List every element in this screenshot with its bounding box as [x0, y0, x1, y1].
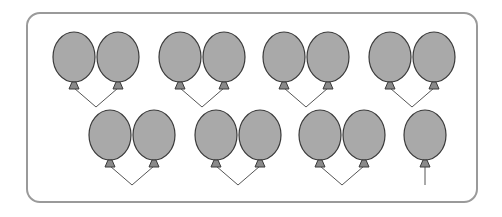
balloon-knot: [149, 160, 159, 167]
balloon-icon: [404, 110, 446, 167]
balloon-string: [342, 166, 364, 185]
balloon-icon: [89, 110, 131, 167]
balloon-string: [306, 88, 328, 107]
balloon-icon: [97, 32, 139, 89]
balloon-icon: [159, 32, 201, 89]
balloon-icon: [369, 32, 411, 89]
balloon-pair: [159, 32, 245, 107]
balloon-knot: [359, 160, 369, 167]
balloon-string: [110, 166, 132, 185]
balloon-icon: [53, 32, 95, 89]
balloon-icon: [195, 110, 237, 167]
balloon-knot: [420, 160, 430, 167]
balloon-string: [284, 88, 306, 107]
balloon-illustration: [0, 0, 502, 217]
balloon-pair: [53, 32, 139, 107]
single-balloon: [404, 110, 446, 185]
balloon-string: [390, 88, 412, 107]
balloon-pair: [299, 110, 385, 185]
balloon-string: [74, 88, 96, 107]
balloon-knot: [105, 160, 115, 167]
balloon-knot: [175, 82, 185, 89]
balloon-icon: [413, 32, 455, 89]
balloon-knot: [279, 82, 289, 89]
balloon-icon: [203, 32, 245, 89]
balloon-string: [412, 88, 434, 107]
balloon-pair: [369, 32, 455, 107]
balloon-knot: [429, 82, 439, 89]
balloon-string: [238, 166, 260, 185]
balloon-icon: [239, 110, 281, 167]
balloon-pair: [195, 110, 281, 185]
balloon-knot: [255, 160, 265, 167]
balloon-string: [320, 166, 342, 185]
balloon-knot: [69, 82, 79, 89]
balloon-string: [202, 88, 224, 107]
balloon-knot: [323, 82, 333, 89]
balloon-string: [96, 88, 118, 107]
balloon-knot: [385, 82, 395, 89]
balloon-string: [180, 88, 202, 107]
balloon-icon: [307, 32, 349, 89]
balloon-knot: [113, 82, 123, 89]
balloon-string: [216, 166, 238, 185]
balloon-icon: [343, 110, 385, 167]
balloon-pair: [89, 110, 175, 185]
balloon-icon: [263, 32, 305, 89]
balloon-string: [132, 166, 154, 185]
balloon-icon: [133, 110, 175, 167]
balloon-knot: [315, 160, 325, 167]
balloon-knot: [211, 160, 221, 167]
balloon-pair: [263, 32, 349, 107]
balloon-knot: [219, 82, 229, 89]
balloon-icon: [299, 110, 341, 167]
